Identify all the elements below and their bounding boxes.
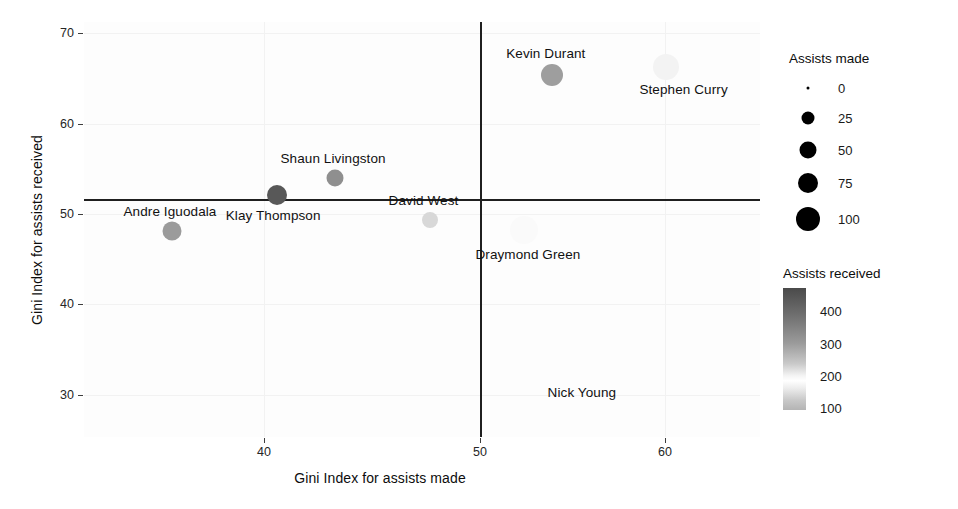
data-point-label: Shaun Livingston <box>280 151 385 166</box>
color-legend-tick-label: 100 <box>820 401 842 416</box>
color-legend-tick-label: 400 <box>820 304 842 319</box>
scatter-plot-figure: Gini Index for assists received 70 60 50… <box>0 0 958 509</box>
size-legend-label: 25 <box>838 111 852 126</box>
data-point[interactable] <box>267 185 287 205</box>
size-legend-label: 75 <box>838 176 852 191</box>
plot-panel: Kevin DurantStephen CurryShaun Livingsto… <box>84 22 760 437</box>
data-point[interactable] <box>510 216 538 244</box>
size-legend-title: Assists made <box>789 51 869 66</box>
data-point[interactable] <box>327 170 344 187</box>
x-tick-mark-40 <box>264 438 265 443</box>
size-legend-label: 50 <box>838 143 852 158</box>
x-tick-mark-50 <box>480 438 481 443</box>
y-tick-label-70: 70 <box>32 26 74 40</box>
color-legend-tick-label: 200 <box>820 369 842 384</box>
size-legend-dot <box>807 87 810 90</box>
y-tick-label-60: 60 <box>32 117 74 131</box>
gridline-y-40 <box>84 304 760 305</box>
size-legend-label: 0 <box>838 81 845 96</box>
y-tick-mark-40 <box>78 304 83 305</box>
size-legend-dot <box>800 142 817 159</box>
gridline-y-70 <box>84 33 760 34</box>
color-legend-gradient-bar <box>783 288 806 410</box>
y-tick-mark-50 <box>78 214 83 215</box>
data-point-label: Kevin Durant <box>506 46 585 61</box>
x-tick-label-60: 60 <box>645 445 685 459</box>
data-point-label: Andre Iguodala <box>123 204 216 219</box>
gridline-y-60 <box>84 124 760 125</box>
size-legend-dot <box>798 173 818 193</box>
size-legend-label: 100 <box>838 212 860 227</box>
x-tick-label-40: 40 <box>244 445 284 459</box>
y-tick-mark-70 <box>78 33 83 34</box>
data-point[interactable] <box>541 64 563 86</box>
data-point-label: Stephen Curry <box>639 82 727 97</box>
y-tick-mark-60 <box>78 124 83 125</box>
x-tick-mark-60 <box>665 438 666 443</box>
x-tick-label-50: 50 <box>460 445 500 459</box>
data-point-label: David West <box>389 192 459 207</box>
y-tick-label-30: 30 <box>32 388 74 402</box>
color-legend-title: Assists received <box>783 266 881 281</box>
data-point[interactable] <box>162 222 181 241</box>
data-point-label: Nick Young <box>548 384 617 399</box>
data-point-label: Draymond Green <box>475 246 580 261</box>
y-tick-mark-30 <box>78 395 83 396</box>
gridline-x-40 <box>264 22 265 437</box>
y-tick-label-40: 40 <box>32 297 74 311</box>
data-point[interactable] <box>422 212 438 228</box>
size-legend-dot <box>802 112 815 125</box>
y-axis-title: Gini Index for assists received <box>29 20 45 440</box>
gridline-y-30 <box>84 395 760 396</box>
size-legend-dot <box>796 207 820 231</box>
color-legend-tick-label: 300 <box>820 337 842 352</box>
x-axis-title: Gini Index for assists made <box>0 470 760 486</box>
y-tick-label-50: 50 <box>32 207 74 221</box>
data-point[interactable] <box>653 54 679 80</box>
vertical-reference-line <box>480 22 482 437</box>
data-point-label: Klay Thompson <box>226 208 321 223</box>
